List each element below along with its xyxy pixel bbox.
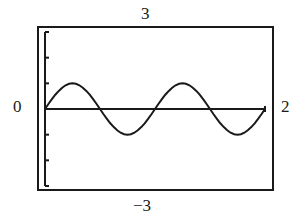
calculator-graph (0, 0, 297, 223)
